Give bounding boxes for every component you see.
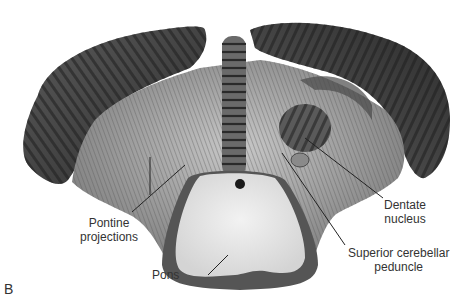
vermis xyxy=(222,36,246,176)
panel-letter: B xyxy=(4,281,13,297)
label-pons: Pons xyxy=(152,268,179,282)
label-dentate-nucleus: Dentate nucleus xyxy=(384,198,426,226)
label-pontine-projections: Pontine projections xyxy=(80,216,138,244)
label-superior-cerebellar-peduncle: Superior cerebellar peduncle xyxy=(348,246,449,274)
aqueduct xyxy=(235,179,245,189)
